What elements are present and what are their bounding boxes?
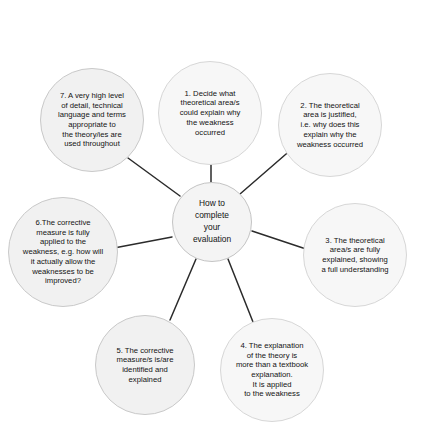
mind-map-node-6[interactable]: 6.The corrective measure is fully applie… xyxy=(8,197,118,307)
connector-hub-to-node-7 xyxy=(128,158,180,196)
node-5-label: 5. The corrective measure/s is/are ident… xyxy=(111,346,178,385)
connector-hub-to-node-4 xyxy=(228,259,253,322)
hub-label: How to complete your evaluation xyxy=(188,198,236,246)
node-3-label: 3. The theoretical area/s are fully expl… xyxy=(316,236,393,275)
mind-map-node-7[interactable]: 7. A very high level of detail, technica… xyxy=(40,68,144,172)
node-6-label: 6.The corrective measure is fully applie… xyxy=(18,218,108,286)
connector-hub-to-node-3 xyxy=(252,231,306,249)
node-1-label: 1. Decide what theoretical area/s could … xyxy=(175,89,246,138)
connector-hub-to-node-5 xyxy=(170,259,196,320)
mind-map-node-4[interactable]: 4. The explanation of the theory is more… xyxy=(220,318,324,422)
connector-hub-to-node-6 xyxy=(114,237,172,248)
mind-map-diagram: 1. Decide what theoretical area/s could … xyxy=(0,0,422,427)
mind-map-node-3[interactable]: 3. The theoretical area/s are fully expl… xyxy=(303,203,407,307)
mind-map-node-1[interactable]: 1. Decide what theoretical area/s could … xyxy=(158,61,262,165)
mind-map-node-5[interactable]: 5. The corrective measure/s is/are ident… xyxy=(95,315,195,415)
node-4-label: 4. The explanation of the theory is more… xyxy=(231,341,313,399)
connector-hub-to-node-2 xyxy=(240,148,293,194)
node-7-label: 7. A very high level of detail, technica… xyxy=(53,91,131,149)
mind-map-node-2[interactable]: 2. The theoretical area is justified, i.… xyxy=(278,73,382,177)
node-2-label: 2. The theoretical area is justified, i.… xyxy=(292,101,368,150)
mind-map-hub-node[interactable]: How to complete your evaluation xyxy=(172,182,252,262)
